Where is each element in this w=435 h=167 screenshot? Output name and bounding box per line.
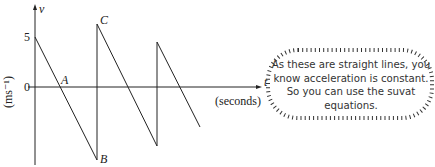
y-axis-label: v xyxy=(39,2,45,16)
y-axis-arrow-icon xyxy=(33,4,37,10)
note-line-3: So you can use the suvat equations. xyxy=(271,85,431,112)
note-callout: As these are straight lines, you know ac… xyxy=(271,54,431,116)
y-units: (ms⁻¹) xyxy=(1,76,15,108)
point-label-a: A xyxy=(60,73,69,87)
point-label-b: B xyxy=(100,152,108,166)
x-axis-label: t xyxy=(264,75,268,89)
x-axis-arrow-icon xyxy=(256,85,262,89)
y-tick-5: 5 xyxy=(24,30,30,44)
point-label-c: C xyxy=(100,13,109,27)
note-line-2: know acceleration is constant. xyxy=(271,72,431,86)
x-units: (seconds) xyxy=(215,94,261,108)
note-line-1: As these are straight lines, you xyxy=(271,58,431,72)
velocity-line xyxy=(35,24,200,160)
y-tick-0: 0 xyxy=(24,80,30,94)
